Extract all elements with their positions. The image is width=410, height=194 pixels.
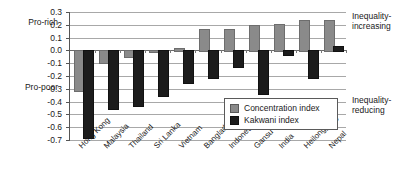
bar-kakwani-index [208,50,219,79]
legend-item-concentration: Concentration index [230,102,332,114]
y-axis-tick [66,102,70,103]
chart-legend: Concentration indexKakwani index [224,98,338,130]
legend-swatch-kakwani [230,116,239,125]
bar-kakwani-index [283,50,294,56]
bar-kakwani-index [233,50,244,67]
bar-concentration-index [224,29,235,53]
legend-label-kakwani: Kakwani index [244,115,299,125]
x-axis-minor-tick [246,50,247,53]
y-axis-tick [66,89,70,90]
bar-concentration-index [199,29,210,53]
y-axis-tick-label: 0.0 [0,45,62,55]
x-axis-minor-tick [296,50,297,53]
bar-kakwani-index [108,50,119,110]
y-axis-tick [66,63,70,64]
y-axis-tick-label: -0.7 [0,135,62,145]
x-axis-minor-tick [321,50,322,53]
y-axis-tick [66,114,70,115]
y-axis-labels: 0.30.20.10.0-0.1-0.2-0.3-0.4-0.5-0.6-0.7 [0,0,69,194]
x-axis-minor-tick [195,50,196,53]
y-axis-tick [66,50,70,51]
legend-label-concentration: Concentration index [244,103,320,113]
y-axis-tick [66,25,70,26]
y-axis-tick [66,12,70,13]
bar-kakwani-index [133,50,144,107]
bar-kakwani-index [333,46,344,52]
chart-container: Pro-rich Pro-poor Inequality- increasing… [0,0,410,194]
y-axis-tick-label: -0.5 [0,109,62,119]
bar-kakwani-index [308,50,319,79]
y-axis-tick [66,127,70,128]
x-axis-minor-tick [120,50,121,53]
x-axis-minor-tick [170,50,171,53]
y-axis-tick-label: -0.1 [0,58,62,68]
gridline [70,12,346,13]
bar-concentration-index [249,25,260,53]
y-axis-tick [66,76,70,77]
bar-concentration-index [299,20,310,53]
x-axis-minor-tick [221,50,222,53]
y-axis-tick-label: 0.2 [0,20,62,30]
legend-item-kakwani: Kakwani index [230,114,332,126]
bar-kakwani-index [83,50,94,139]
y-axis-tick-label: -0.6 [0,122,62,132]
y-axis-tick [66,38,70,39]
x-axis-minor-tick [95,50,96,53]
y-axis-tick-label: -0.2 [0,71,62,81]
y-axis-tick-label: 0.1 [0,33,62,43]
y-axis-tick-label: -0.3 [0,84,62,94]
legend-swatch-concentration [230,104,239,113]
annotation-inequality-reducing: Inequality- reducing [352,96,408,115]
y-axis-tick-label: -0.4 [0,97,62,107]
x-axis-minor-tick [346,50,347,53]
y-axis-tick-label: 0.3 [0,7,62,17]
x-axis-minor-tick [271,50,272,53]
bar-kakwani-index [158,50,169,97]
x-axis-minor-tick [145,50,146,53]
bar-kakwani-index [183,50,194,84]
bar-kakwani-index [258,50,269,94]
bar-concentration-index [274,24,285,53]
annotation-inequality-increasing: Inequality- increasing [352,12,408,31]
y-axis-tick [66,140,70,141]
